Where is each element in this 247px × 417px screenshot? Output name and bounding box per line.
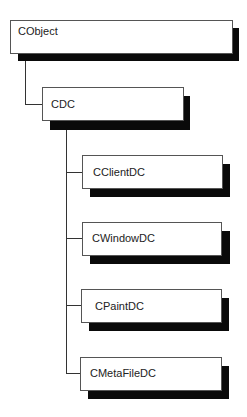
connector-cobject-to-cdc [25, 104, 42, 105]
connector-cdc-to-cwindowdc [66, 238, 82, 239]
node-label: CDC [51, 98, 75, 110]
node-label: CObject [18, 25, 58, 37]
node-label: CMetaFileDC [90, 367, 156, 379]
connector-cdc-to-cmetafiledc [66, 373, 80, 374]
connector-cdc-vertical [66, 120, 67, 374]
connector-cdc-to-cclientdc [66, 172, 82, 173]
connector-cdc-to-cpaintdc [66, 305, 81, 306]
node-label: CClientDC [93, 166, 145, 178]
node-label: CPaintDC [95, 300, 144, 312]
node-label: CWindowDC [92, 232, 155, 244]
